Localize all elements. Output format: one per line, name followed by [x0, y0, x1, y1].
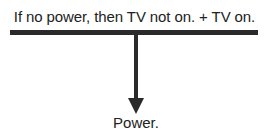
premises-label: If no power, then TV not on. + TV on.	[0, 8, 269, 26]
arrow-down-icon	[128, 98, 144, 114]
conclusion-label: Power.	[0, 114, 269, 132]
inference-arrow-stem	[134, 34, 138, 100]
